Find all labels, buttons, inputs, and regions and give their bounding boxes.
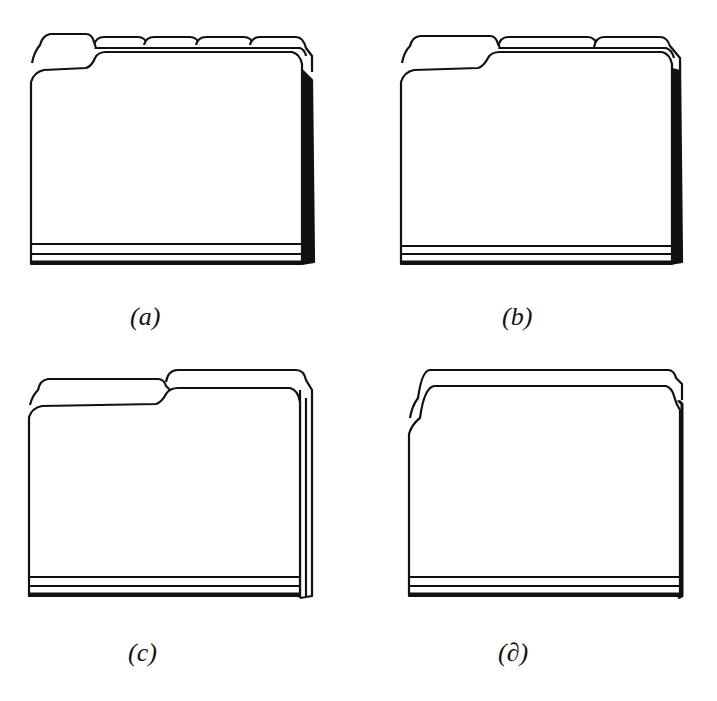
third-cut-folder-icon [370, 0, 717, 350]
panel-label-b: (b) [502, 302, 532, 332]
fifth-cut-folder-icon [0, 0, 358, 350]
panel-label-c: (c) [128, 638, 157, 668]
straight-cut-folder-icon [370, 350, 717, 701]
panel-label-a: (a) [130, 302, 160, 332]
folder-illustration-c: (c) [0, 350, 358, 701]
half-cut-folder-icon [0, 350, 358, 701]
folder-illustration-a: (a) [0, 0, 358, 350]
panel-label-d: (∂) [498, 638, 528, 668]
folder-illustration-b: (b) [370, 0, 717, 350]
folder-illustration-d: (∂) [370, 350, 717, 701]
